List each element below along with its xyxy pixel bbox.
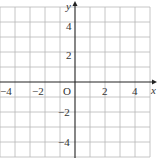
- x-axis-label: x: [150, 84, 156, 96]
- y-tick-label: −2: [58, 106, 70, 118]
- origin-label: O: [63, 85, 71, 97]
- y-tick-label: −4: [58, 136, 70, 148]
- y-axis-label: y: [65, 0, 71, 12]
- y-tick-label: 2: [66, 49, 72, 61]
- y-axis-arrow-icon: [73, 1, 78, 6]
- x-tick-label: −2: [32, 85, 44, 97]
- coordinate-plane: y x O −4 −2 2 4 4 2 −2 −4: [0, 0, 159, 158]
- x-tick-label: 2: [102, 85, 108, 97]
- x-tick-label: 4: [132, 85, 138, 97]
- x-tick-label: −4: [0, 85, 12, 97]
- y-tick-label: 4: [66, 20, 72, 32]
